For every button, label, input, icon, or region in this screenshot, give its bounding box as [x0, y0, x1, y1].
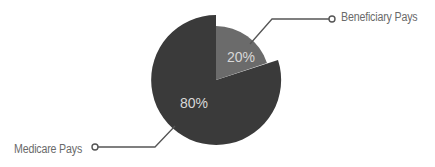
medicare-percent: 80%	[180, 95, 208, 111]
label-beneficiary-pays: Beneficiary Pays	[341, 10, 417, 24]
leader-dot-beneficiary	[329, 16, 335, 22]
beneficiary-percent: 20%	[227, 49, 255, 65]
leader-dot-medicare	[92, 144, 98, 150]
leader-line-beneficiary	[250, 19, 329, 44]
label-medicare-pays: Medicare Pays	[14, 142, 82, 156]
leader-line-medicare	[98, 126, 175, 147]
